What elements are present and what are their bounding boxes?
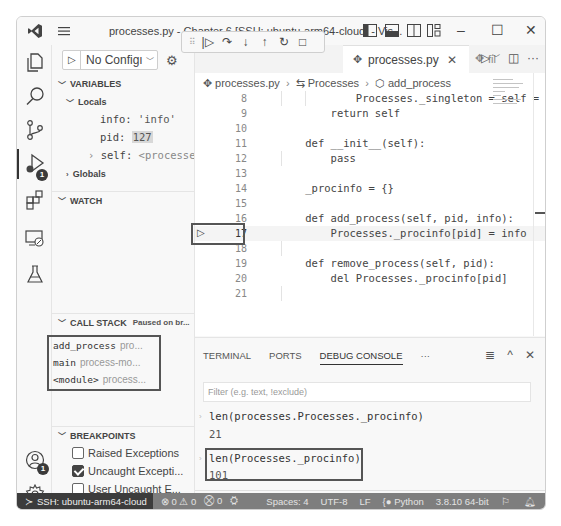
source-control-icon[interactable] (24, 119, 46, 141)
maximize-button[interactable]: ☐ (491, 22, 504, 38)
explorer-icon[interactable] (24, 51, 46, 73)
split-editor-icon[interactable]: ◫ (508, 51, 519, 67)
chevron-down-icon: ﹀ (58, 79, 66, 90)
more-tabs-icon[interactable]: ··· (421, 350, 431, 365)
clear-console-icon[interactable]: ≣ (485, 348, 495, 362)
braces-icon: {● (383, 496, 392, 507)
gear-icon[interactable]: ⚙ (166, 53, 178, 68)
breadcrumb-file[interactable]: processes.py (215, 77, 280, 89)
customize-layout-icon[interactable] (427, 24, 441, 37)
ports-status[interactable]: ⛒ 0 (204, 495, 222, 507)
remote-indicator[interactable]: ≻ SSH: ubuntu-arm64-cloud (17, 493, 153, 509)
warning-icon: ⚠ (179, 496, 188, 507)
panel-actions: ≣ ^ ✕ (485, 348, 535, 362)
step-into-icon[interactable]: ↓ (236, 35, 255, 49)
feedback-icon[interactable]: ⚐ (501, 496, 510, 507)
extensions-icon[interactable] (24, 189, 46, 211)
start-debugging-icon[interactable]: ▷ (63, 51, 81, 69)
code-line: 13 (195, 166, 545, 181)
breadcrumb: ✥ processes.py › ⇆ Processes › ⬡ add_pro… (203, 77, 451, 90)
python-file-icon: ✥ (353, 53, 362, 66)
toggle-panel-icon[interactable] (385, 24, 399, 37)
testing-icon[interactable] (24, 263, 46, 285)
code-line: 19 def remove_process(self, pid): (195, 256, 545, 271)
eol-status[interactable]: LF (359, 496, 370, 507)
status-bar: ≻ SSH: ubuntu-arm64-cloud ⊗ 0 ⚠ 0 ⛒ 0 ⛭ … (17, 493, 545, 509)
editor-scrollbar[interactable] (533, 73, 545, 336)
chevron-down-icon: ﹀ (66, 97, 74, 108)
tab-ports[interactable]: PORTS (269, 350, 302, 365)
interpreter-status[interactable]: 3.8.10 64-bit (436, 496, 489, 507)
input-marker-icon: › (199, 454, 202, 463)
restart-icon[interactable]: ↻ (274, 35, 293, 49)
code-editor[interactable]: ✥ processes.py › ⇆ Processes › ⬡ add_pro… (195, 73, 545, 336)
encoding-status[interactable]: UTF-8 (321, 496, 348, 507)
accounts-badge: 1 (37, 463, 49, 475)
checkbox[interactable] (72, 447, 84, 459)
menu-hamburger-icon[interactable] (57, 24, 71, 38)
chevron-down-icon: ﹀ (58, 195, 66, 206)
remote-explorer-icon[interactable] (24, 227, 46, 249)
maximize-panel-icon[interactable]: ^ (507, 348, 513, 362)
code-line: 15 (195, 196, 545, 211)
error-icon: ⊗ (161, 496, 169, 507)
minimap[interactable] (493, 79, 527, 139)
chevron-right-icon: › (66, 170, 69, 179)
locals-scope[interactable]: ﹀ Locals (52, 93, 194, 111)
chevron-right-icon: › (286, 77, 290, 89)
console-filter-input[interactable]: Filter (e.g. text, !exclude) (203, 382, 531, 402)
search-icon[interactable] (24, 85, 46, 107)
debug-status-icon[interactable]: ⛭ (230, 495, 238, 507)
call-stack-header[interactable]: ﹀ CALL STACK Paused on br... (52, 313, 194, 331)
problems-status[interactable]: ⊗ 0 ⚠ 0 (161, 496, 197, 507)
activity-bar: 1 1 (17, 45, 52, 493)
stack-frame[interactable]: add_processpro... (49, 337, 159, 354)
vscode-window: processes.py - Chapter 6 [SSH: ubuntu-ar… (16, 16, 546, 510)
drag-handle-icon[interactable]: ⠿ (186, 37, 198, 47)
stack-frame[interactable]: mainprocess-mo... (49, 354, 159, 371)
indentation-status[interactable]: Spaces: 4 (266, 496, 308, 507)
tab-terminal[interactable]: TERMINAL (203, 350, 251, 365)
toggle-secondary-sidebar-icon[interactable] (407, 24, 421, 37)
tab-debug-console[interactable]: DEBUG CONSOLE (320, 350, 403, 365)
breakpoint-raised-exceptions[interactable]: Raised Exceptions (72, 444, 179, 461)
continue-icon[interactable]: |▷ (198, 35, 217, 49)
active-indicator (17, 149, 19, 179)
language-status[interactable]: {● Python (383, 496, 424, 507)
breakpoint-arrow-icon[interactable]: ▷ (197, 227, 205, 238)
close-window-button[interactable]: ✕ (525, 22, 537, 38)
console-input-line: len(processes.Processes._procinfo) (209, 410, 424, 422)
step-over-icon[interactable]: ↷ (217, 35, 236, 49)
variables-header[interactable]: ﹀ VARIABLES (52, 75, 194, 93)
variable-self[interactable]: › self: <processes.P... (88, 147, 194, 163)
debug-config-select[interactable]: ▷ No Configı ﹀ (62, 50, 158, 70)
step-out-icon[interactable]: ↑ (255, 35, 274, 49)
minimize-button[interactable]: – (457, 22, 465, 38)
more-actions-icon[interactable]: ··· (527, 51, 539, 67)
notifications-bell-icon[interactable]: 🔔︎ (524, 496, 536, 507)
stack-frame[interactable]: <module>process... (49, 371, 159, 388)
close-tab-icon[interactable]: ✕ (447, 53, 457, 67)
breakpoint-uncaught-exceptions[interactable]: Uncaught Excepti... (72, 462, 183, 479)
console-output-line: 21 (209, 428, 222, 440)
toggle-primary-sidebar-icon[interactable] (363, 24, 377, 37)
close-panel-icon[interactable]: ✕ (525, 348, 535, 362)
breadcrumb-class[interactable]: Processes (308, 77, 359, 89)
breadcrumb-method[interactable]: add_process (388, 77, 451, 89)
tab-processes-py[interactable]: ✥ processes.py ✕ (343, 45, 469, 73)
stop-icon[interactable]: □ (293, 35, 312, 49)
variable-pid[interactable]: pid: 127 (100, 129, 194, 145)
chevron-down-icon[interactable]: ﹀ (492, 51, 500, 67)
chevron-down-icon: ﹀ (58, 430, 66, 441)
variable-info[interactable]: info: 'info' (100, 111, 194, 127)
globals-scope[interactable]: › Globals (52, 165, 194, 183)
checkbox[interactable] (72, 465, 84, 477)
watch-header[interactable]: ﹀ WATCH (52, 191, 194, 209)
console-input-line: len(Processes._procinfo) (209, 452, 361, 464)
run-python-icon[interactable]: ▷ (481, 51, 490, 67)
code-line: 21 (195, 286, 545, 301)
breakpoints-header[interactable]: ﹀ BREAKPOINTS (52, 426, 194, 444)
code-line: 14 _procinfo = {} (195, 181, 545, 196)
call-stack-list: add_processpro... mainprocess-mo... <mod… (47, 335, 161, 391)
python-file-icon: ✥ (203, 77, 215, 89)
